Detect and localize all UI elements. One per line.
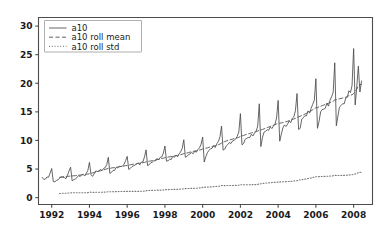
legend-label: a10 roll std [72,42,120,52]
y-tick-label: 5 [26,164,32,174]
x-tick-label: 1998 [152,210,177,220]
x-tick-label: 2006 [303,210,328,220]
x-tick-label: 1992 [39,210,64,220]
x-tick-label: 1996 [115,210,140,220]
x-tick-label: 2008 [341,210,366,220]
y-tick-label: 10 [20,136,33,146]
x-tick-label: 2002 [228,210,253,220]
y-tick-label: 15 [20,107,33,117]
x-tick-label: 2000 [190,210,215,220]
y-tick-label: 25 [20,50,33,60]
x-axis-tick-labels: 199219941996199820002002200420062008 [39,210,366,220]
stationarity-plot: 199219941996199820002002200420062008 051… [0,0,390,234]
y-tick-label: 20 [20,79,33,89]
x-tick-label: 2004 [266,210,291,220]
plot-legend[interactable]: a10a10 roll meana10 roll std [45,21,142,53]
y-tick-label: 30 [20,21,33,31]
x-tick-label: 1994 [77,210,102,220]
y-tick-label: 0 [26,193,32,203]
matplotlib-figure: 199219941996199820002002200420062008 051… [0,0,390,234]
